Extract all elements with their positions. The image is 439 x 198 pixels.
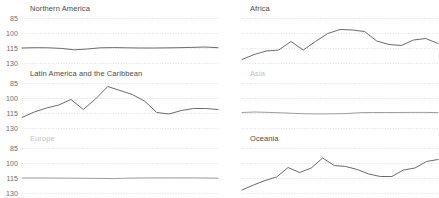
y-tick-label-130: 85	[0, 80, 18, 87]
series-line-africa	[242, 30, 438, 60]
y-tick-label-115: 100	[0, 30, 18, 37]
panel-title-africa: Africa	[250, 4, 270, 13]
panel-oceania: Oceania	[242, 134, 438, 195]
panel-latin-america-and-the-caribbean: Latin America and the Caribbean	[22, 69, 218, 130]
series-line-oceania	[242, 158, 438, 190]
small-multiples-chart-figure: Northern AmericaAfricaLatin America and …	[0, 0, 439, 198]
panel-title-asia: Asia	[250, 69, 265, 78]
series-line-latin-america-and-the-caribbean	[22, 87, 218, 118]
plot-area-northern-america	[22, 18, 218, 65]
y-tick-label-100: 115	[0, 45, 18, 52]
panel-title-europe: Europe	[30, 134, 55, 143]
y-tick-label-115: 100	[0, 160, 18, 167]
panel-africa: Africa	[242, 4, 438, 65]
y-tick-label-130: 85	[0, 15, 18, 22]
panel-title-oceania: Oceania	[250, 134, 279, 143]
plot-area-oceania	[242, 148, 438, 195]
y-tick-label-115: 100	[0, 95, 18, 102]
plot-area-asia	[242, 83, 438, 130]
panel-title-latin-america-and-the-caribbean: Latin America and the Caribbean	[30, 69, 142, 78]
plot-area-europe	[22, 148, 218, 195]
y-tick-label-85: 130	[0, 60, 18, 67]
panel-europe: Europe	[22, 134, 218, 195]
y-tick-label-85: 130	[0, 190, 18, 197]
y-tick-label-100: 115	[0, 175, 18, 182]
panel-northern-america: Northern America	[22, 4, 218, 65]
y-tick-label-100: 115	[0, 110, 18, 117]
plot-area-africa	[242, 18, 438, 65]
panel-asia: Asia	[242, 69, 438, 130]
plot-area-latin-america-and-the-caribbean	[22, 83, 218, 130]
panel-title-northern-america: Northern America	[30, 4, 90, 13]
y-tick-label-130: 85	[0, 145, 18, 152]
y-tick-label-85: 130	[0, 125, 18, 132]
